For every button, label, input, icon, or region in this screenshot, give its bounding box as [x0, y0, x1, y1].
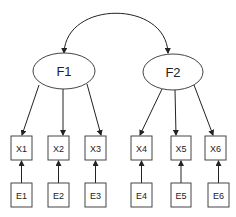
loading-arrow-f2-x4	[140, 89, 162, 135]
error-e4-label: E4	[136, 191, 147, 201]
indicator-x4-label: X4	[136, 144, 147, 154]
error-e1-label: E1	[16, 191, 27, 201]
error-e3-label: E3	[90, 191, 101, 201]
indicator-x2-label: X2	[53, 144, 64, 154]
factor-f1-label: F1	[56, 64, 71, 79]
error-e5: E5	[171, 183, 191, 207]
indicator-x3-label: X3	[90, 144, 101, 154]
error-e5-label: E5	[175, 191, 186, 201]
error-e1: E1	[11, 183, 32, 207]
indicator-x2: X2	[48, 136, 69, 160]
indicator-x3: X3	[85, 136, 106, 160]
error-e2-label: E2	[53, 191, 64, 201]
indicator-x6-label: X6	[210, 144, 221, 154]
factor-f2-label: F2	[165, 65, 180, 80]
error-e6-label: E6	[213, 191, 224, 201]
loading-arrow-f1-x3	[87, 84, 101, 135]
loading-arrow-f1-x1	[22, 85, 39, 135]
indicator-x6: X6	[205, 136, 226, 160]
indicator-x4: X4	[131, 136, 152, 160]
indicator-x5: X5	[171, 136, 191, 160]
error-e6: E6	[208, 183, 229, 207]
cfa-diagram: F1 F2 X1 X2 X3 X4 X5 X6	[0, 0, 236, 217]
factor-f1: F1	[33, 53, 95, 89]
error-e3: E3	[85, 183, 106, 207]
loading-arrow-f2-x5	[175, 90, 176, 135]
factor-f2: F2	[143, 54, 203, 90]
error-e2: E2	[48, 183, 69, 207]
loading-arrow-f2-x6	[194, 85, 213, 135]
error-e4: E4	[131, 183, 152, 207]
indicator-x5-label: X5	[175, 144, 186, 154]
covariance-arrow-f1-f2	[64, 13, 168, 53]
indicator-x1-label: X1	[16, 144, 27, 154]
indicator-x1: X1	[11, 136, 32, 160]
